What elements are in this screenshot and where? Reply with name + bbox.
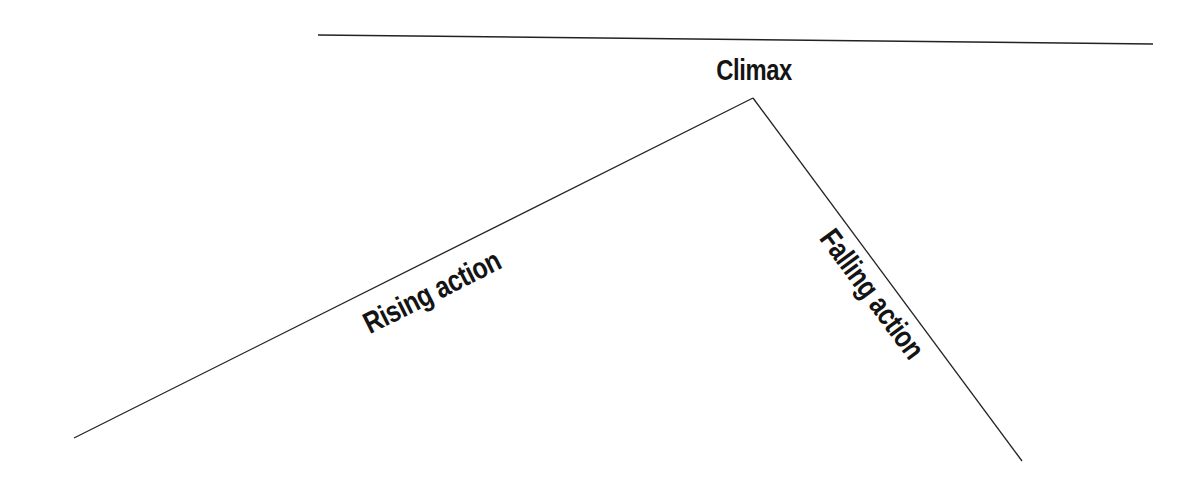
top-rule-line bbox=[318, 35, 1153, 44]
climax-label: Climax bbox=[716, 56, 792, 85]
falling-action-line bbox=[753, 98, 1022, 461]
plot-diagram bbox=[0, 0, 1202, 489]
rising-action-line bbox=[74, 98, 753, 438]
